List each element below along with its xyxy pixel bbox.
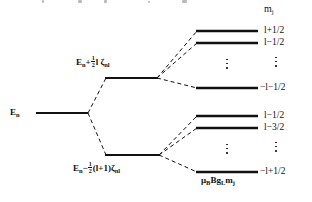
label-fine-structure-lower: En−12(l+1)ζnl bbox=[73, 161, 120, 175]
label-unperturbed-level: En bbox=[10, 108, 20, 118]
connector-en-to-upper bbox=[88, 78, 106, 113]
mj-label-upper-4: −l−1/2 bbox=[260, 83, 286, 93]
label-zeeman-energy: μBBgLmj bbox=[201, 176, 235, 186]
connector-upper-to-mj1 bbox=[157, 31, 197, 78]
energy-level-diagram: En En+12l ζnl En−12(l+1)ζnl μBBgLmj mj l… bbox=[0, 0, 312, 202]
mj-label-lower-1: l−1/2 bbox=[264, 111, 284, 121]
mj-label-lower-ellipsis bbox=[275, 139, 277, 152]
label-fine-structure-upper: En+12l ζnl bbox=[76, 55, 110, 69]
connector-lower-to-mj1 bbox=[159, 116, 197, 155]
mj-label-upper-1: l+1/2 bbox=[264, 26, 284, 36]
level-ellipsis-upper bbox=[226, 56, 228, 69]
connector-upper-to-mj3 bbox=[157, 78, 197, 88]
mj-label-upper-ellipsis bbox=[275, 54, 277, 67]
mj-label-lower-4: −l+1/2 bbox=[260, 167, 286, 177]
mj-label-upper-2: l−1/2 bbox=[264, 38, 284, 48]
connector-upper-to-mj2 bbox=[157, 43, 197, 78]
mj-column-header: mj bbox=[264, 4, 274, 16]
connector-lower-to-mj3 bbox=[159, 155, 197, 172]
connector-lower-to-mj2 bbox=[159, 128, 197, 155]
connector-en-to-lower bbox=[88, 113, 106, 155]
level-ellipsis-lower bbox=[226, 141, 228, 154]
mj-label-lower-2: l−3/2 bbox=[264, 123, 284, 133]
